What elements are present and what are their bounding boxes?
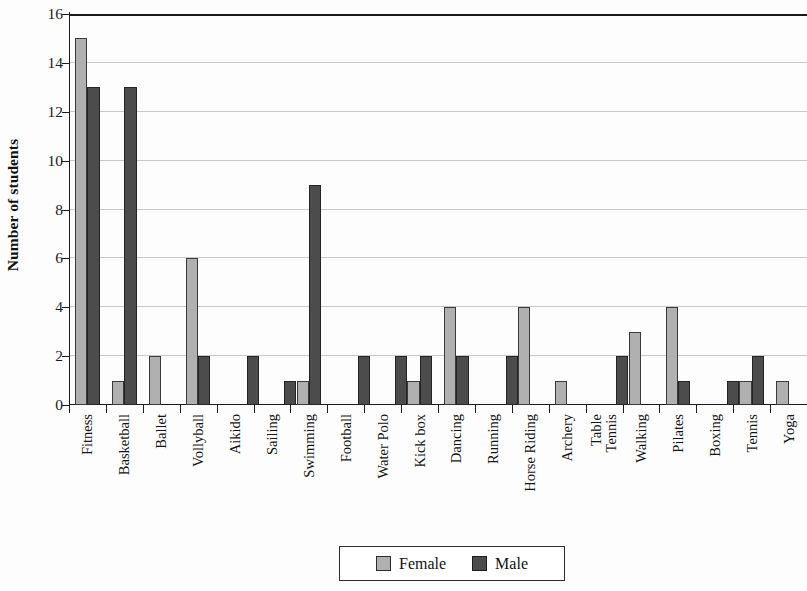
bar-female [776,381,788,405]
legend-label: Male [495,555,528,573]
x-axis-tick-mark [475,405,476,413]
bar-group [290,14,327,405]
x-axis-tick-label-text: Horse Riding [523,414,538,492]
y-axis-tick-mark [62,112,69,113]
x-axis-tick-label-text: Dancing [449,414,464,463]
bar-group [254,14,291,405]
x-axis-tick-mark [549,405,550,413]
x-axis-tick-mark [696,405,697,413]
bar-female [739,381,751,405]
plot-area [69,14,807,405]
x-axis-tick-mark [401,405,402,413]
y-axis-tick-label: 8 [23,201,63,219]
bar-female [149,356,161,405]
x-axis-tick-mark [438,405,439,413]
x-axis-tick-mark [217,405,218,413]
y-axis-tick-label: 14 [23,54,63,72]
chart-page: Number of students 0246810121416 Fitness… [0,0,807,591]
bar-female [629,332,641,405]
y-axis-tick-mark [62,258,69,259]
bar-group [512,14,549,405]
x-axis-tick-label-text: Vollyball [191,414,206,467]
x-axis-tick-label-text: Fitness [80,414,95,455]
bar-male [124,87,136,405]
bar-group [69,14,106,405]
x-axis-tick-mark [180,405,181,413]
x-axis-tick-label-text: Archery [560,414,575,462]
bar-male [198,356,210,405]
bar-female [407,381,419,405]
x-axis-tick-mark [586,405,587,413]
y-axis-tick-mark [62,63,69,64]
y-axis-title-text: Number of students [4,139,22,271]
y-axis-tick-label: 12 [23,103,63,121]
x-axis-tick-label-text: Tennis [744,414,759,452]
y-axis-tick-mark [62,210,69,211]
x-axis-tick-mark [254,405,255,413]
bar-group [549,14,586,405]
x-axis-tick-mark [69,405,70,413]
bar-group [733,14,770,405]
x-axis-tick-label-text: Swimming [301,414,316,478]
bar-group [623,14,660,405]
y-axis-tick-label: 16 [23,5,63,23]
bar-female [666,307,678,405]
y-axis-tick-label: 0 [23,396,63,414]
x-axis-tick-label-text: Pilates [670,414,685,453]
x-axis-tick-label-text: Kick box [412,414,427,468]
x-axis-tick-label-text: Aikido [228,414,243,454]
bar-group [696,14,733,405]
bar-male [87,87,99,405]
bar-male [456,356,468,405]
x-axis-tick-labels: FitnessBasketballBalletVollyballAikidoSa… [69,414,807,534]
bar-group [659,14,696,405]
x-axis-tick-mark [623,405,624,413]
bar-group [217,14,254,405]
x-axis-tick-label-text: Running [486,414,501,464]
bar-group [475,14,512,405]
x-axis-tick-label-text: Basketball [117,414,132,475]
bar-group [143,14,180,405]
x-axis-tick-label-text: TableTennis [589,414,619,532]
bar-group [106,14,143,405]
bar-group [364,14,401,405]
bar-female [186,258,198,405]
bar-group [401,14,438,405]
legend-entry: Male [472,555,528,573]
bar-group [586,14,623,405]
x-axis-tick-label-text: Boxing [707,414,722,457]
bar-female [444,307,456,405]
x-axis-tick-mark [733,405,734,413]
bar-female [75,38,87,405]
y-axis-tick-labels: 0246810121416 [26,14,63,405]
x-axis-tick-mark [327,405,328,413]
legend-swatch-icon [472,556,487,571]
y-axis-tick-mark [62,307,69,308]
x-axis-tick-label-text: Yoga [781,414,796,444]
legend-label: Female [399,555,446,573]
legend-entry: Female [376,555,446,573]
bar-group [180,14,217,405]
y-axis-tick-label: 6 [23,249,63,267]
x-axis-tick-mark [143,405,144,413]
y-axis-tick-mark [62,14,69,15]
bar-male [678,381,690,405]
x-axis-tick-label-text: Football [338,414,353,462]
y-axis-tick-label: 4 [23,298,63,316]
x-axis-tick-marks [69,405,807,414]
x-axis-tick-label-text: Ballet [154,414,169,449]
x-axis-tick-label-text: Water Polo [375,414,390,478]
chart-legend: FemaleMale [339,546,565,581]
x-axis-tick-mark [364,405,365,413]
bar-group [327,14,364,405]
y-axis-tick-mark [62,356,69,357]
x-axis-tick-mark [659,405,660,413]
bar-male [752,356,764,405]
x-axis-tick-mark [106,405,107,413]
bar-female [112,381,124,405]
x-axis-tick-mark [770,405,771,413]
y-axis-tick-mark [62,405,69,406]
bar-group [438,14,475,405]
bar-female [297,381,309,405]
legend-swatch-icon [376,556,391,571]
